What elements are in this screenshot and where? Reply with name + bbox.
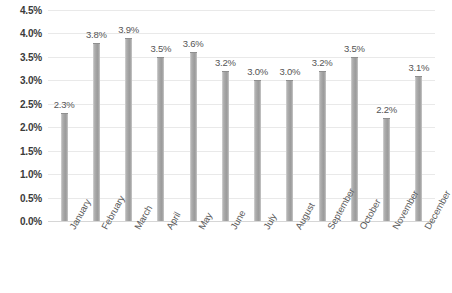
- bar: [383, 118, 390, 221]
- bar: [286, 80, 293, 221]
- gridline: [48, 127, 435, 128]
- y-axis-tick-label: 4.0%: [0, 28, 42, 39]
- y-axis-tick-label: 3.5%: [0, 51, 42, 62]
- y-axis-tick-label: 3.0%: [0, 75, 42, 86]
- bar: [222, 71, 229, 221]
- gridline: [48, 10, 435, 11]
- bar: [254, 80, 261, 221]
- bar: [190, 52, 197, 221]
- y-axis-tick-label: 1.0%: [0, 169, 42, 180]
- bar-value-label: 3.2%: [302, 57, 342, 68]
- gridline: [48, 151, 435, 152]
- bar: [93, 43, 100, 221]
- bar: [157, 57, 164, 221]
- bar-value-label: 2.2%: [367, 104, 407, 115]
- y-axis-tick-label: 0.0%: [0, 216, 42, 227]
- bar: [125, 38, 132, 221]
- bar: [319, 71, 326, 221]
- gridline: [48, 174, 435, 175]
- y-axis-tick-label: 1.5%: [0, 145, 42, 156]
- bar-value-label: 3.0%: [270, 66, 310, 77]
- bar-value-label: 3.6%: [173, 38, 213, 49]
- y-axis-tick-label: 0.5%: [0, 192, 42, 203]
- plot-area: [48, 10, 435, 221]
- y-axis-tick-label: 2.0%: [0, 122, 42, 133]
- bar: [61, 113, 68, 221]
- bar-value-label: 3.9%: [109, 24, 149, 35]
- bar-value-label: 3.5%: [334, 43, 374, 54]
- y-axis-tick-label: 4.5%: [0, 5, 42, 16]
- bar-value-label: 3.1%: [399, 62, 439, 73]
- gridline: [48, 80, 435, 81]
- bar-value-label: 2.3%: [44, 99, 84, 110]
- y-axis-tick-label: 2.5%: [0, 98, 42, 109]
